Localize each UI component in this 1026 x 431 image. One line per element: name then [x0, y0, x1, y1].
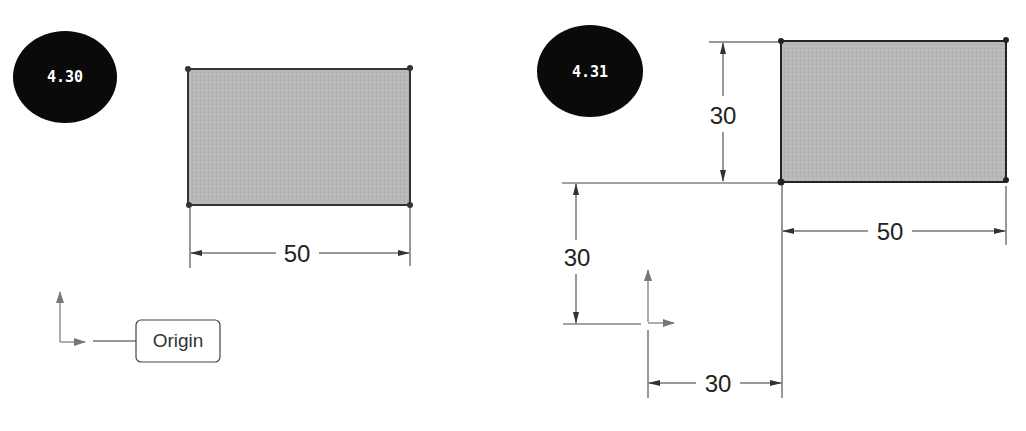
figure-4-30: 4.30 50 Origin: [13, 31, 413, 362]
badge-label: 4.30: [47, 68, 83, 86]
dimension-value: 30: [705, 370, 732, 397]
badge-label: 4.31: [572, 63, 608, 81]
dimension-rect-width[interactable]: 50: [783, 186, 1006, 245]
origin-label: Origin: [153, 330, 204, 351]
sketch-rectangle[interactable]: [778, 37, 1010, 186]
dimension-value: 50: [877, 218, 904, 245]
dimension-origin-x[interactable]: 30: [649, 185, 782, 398]
dimension-rect-height[interactable]: 30: [709, 42, 778, 181]
figure-badge: 4.30: [13, 31, 117, 123]
sketch-rectangle[interactable]: [185, 65, 413, 208]
origin-icon[interactable]: [60, 292, 85, 342]
origin-icon[interactable]: [648, 270, 674, 323]
figure-4-31: 4.31 30 30: [537, 25, 1009, 398]
dimension-value: 30: [710, 102, 737, 129]
dimension-value: 50: [284, 240, 311, 267]
figure-badge: 4.31: [537, 25, 643, 117]
sketch-canvas: 4.30 50 Origin 4.31: [0, 0, 1026, 431]
dimension-origin-y[interactable]: 30: [563, 184, 641, 324]
dimension-value: 30: [564, 244, 591, 271]
dimension-width[interactable]: 50: [190, 208, 410, 268]
origin-callout: Origin: [136, 320, 220, 362]
